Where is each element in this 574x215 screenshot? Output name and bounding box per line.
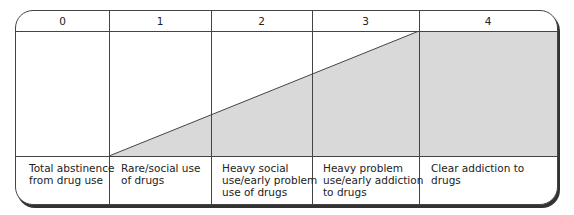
column-divider (211, 11, 212, 204)
stage-caption-1: Rare/social use of drugs (121, 162, 200, 186)
stage-number-1: 1 (109, 11, 211, 31)
stage-number-3: 3 (312, 11, 419, 31)
stage-caption-2: Heavy social use/early problem use of dr… (222, 162, 317, 198)
stage-caption-3: Heavy problem use/early addiction to dru… (323, 162, 423, 198)
severity-wedge (16, 31, 557, 156)
stage-number-0: 0 (16, 11, 109, 31)
drug-use-continuum-diagram: 0 1 2 3 4 Total abstinence from drug use… (15, 10, 558, 205)
stage-number-4: 4 (419, 11, 557, 31)
stage-caption-4: Clear addiction to drugs (431, 162, 557, 186)
caption-divider (16, 156, 557, 157)
header-divider (16, 31, 557, 32)
stage-number-2: 2 (211, 11, 312, 31)
stage-caption-0: Total abstinence from drug use (29, 162, 114, 186)
